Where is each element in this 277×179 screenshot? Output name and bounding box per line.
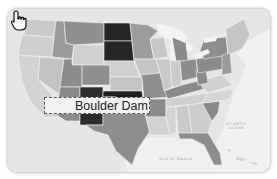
gulf-label: Gulf of Mexico [156,157,196,161]
boulder-dam-tooltip[interactable]: Boulder Dam [44,97,150,114]
tooltip-label: Boulder Dam [75,98,148,115]
state-oh [180,59,198,81]
atlantic-label: ATLANTIC OCEAN [216,122,256,130]
us-map[interactable] [8,9,270,172]
state-ks [110,77,142,91]
state-nj-md [222,53,232,75]
state-or [18,35,54,57]
state-sd [104,41,134,61]
hand-pointer-icon [8,9,32,33]
state-wy [72,45,104,65]
state-nd [104,23,132,41]
map-frame: ATLANTIC OCEAN Gulf of Mexico Boulder Da… [8,9,270,172]
state-mt [64,21,104,45]
atlantic-line2: OCEAN [216,126,256,130]
state-co [82,65,110,85]
